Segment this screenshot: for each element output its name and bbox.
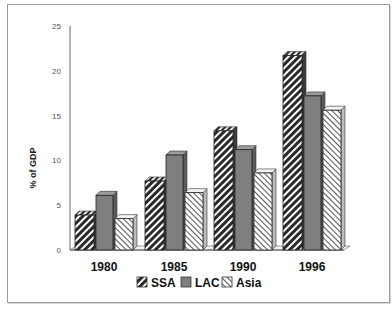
y-tick-label: 10 <box>52 156 61 165</box>
x-tick-label: 1980 <box>91 260 118 274</box>
y-tick-label: 0 <box>57 246 62 255</box>
bar-ssa-1980 <box>75 211 98 250</box>
legend-item-ssa: SSA <box>137 276 176 290</box>
legend-swatch <box>181 277 191 287</box>
x-tick-label: 1996 <box>299 260 326 274</box>
y-tick-label: 5 <box>57 201 62 210</box>
y-axis-title: % of GDP <box>28 147 38 188</box>
legend-label: LAC <box>195 276 220 290</box>
bar-lac-1990 <box>235 146 256 250</box>
y-tick-label: 15 <box>52 112 61 121</box>
x-tick-label: 1985 <box>161 260 188 274</box>
x-axis-labels: 1980198519901996 <box>91 260 326 274</box>
legend-label: SSA <box>151 276 176 290</box>
bar-asia-1980 <box>115 215 137 250</box>
bar-ssa-1996 <box>283 52 306 250</box>
bars <box>75 52 345 250</box>
bar-ssa-1990 <box>214 127 237 250</box>
bar-asia-1990 <box>254 169 276 250</box>
y-tick-label: 25 <box>52 22 61 31</box>
x-tick-label: 1990 <box>230 260 257 274</box>
bar-asia-1996 <box>323 106 345 250</box>
bar-lac-1985 <box>166 151 187 250</box>
legend: SSALACAsia <box>137 276 262 290</box>
y-tick-label: 20 <box>52 67 61 76</box>
bar-chart: 0510152025% of GDP 1980198519901996 SSAL… <box>0 0 392 309</box>
bar-lac-1996 <box>304 92 325 250</box>
legend-item-asia: Asia <box>222 276 262 290</box>
legend-swatch <box>222 277 232 287</box>
bar-lac-1980 <box>96 191 117 250</box>
legend-label: Asia <box>236 276 262 290</box>
bar-ssa-1985 <box>145 177 168 250</box>
bar-asia-1985 <box>185 189 207 250</box>
legend-item-lac: LAC <box>181 276 220 290</box>
legend-swatch <box>137 277 147 287</box>
